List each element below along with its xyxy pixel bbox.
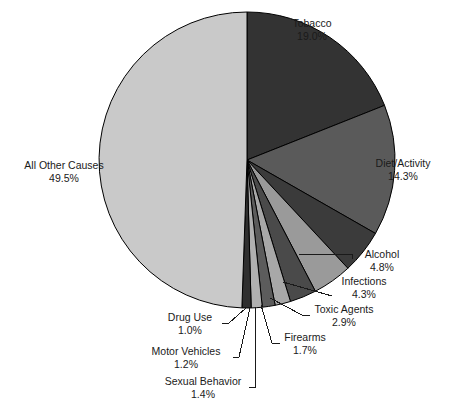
slice-label-sexual-behavior-pct: 1.4%: [165, 388, 241, 401]
slice-label-alcohol: Alcohol 4.8%: [365, 248, 399, 274]
slice-label-infections-name: Infections: [342, 275, 387, 288]
leader-line-drug-use: [222, 308, 246, 323]
leader-line-motor-vehicles: [233, 308, 250, 357]
slice-label-motor-vehicles: Motor Vehicles 1.2%: [152, 345, 221, 371]
leader-line-firearms: [261, 305, 280, 343]
pie-chart-canvas: [0, 0, 461, 418]
slice-label-motor-vehicles-name: Motor Vehicles: [152, 345, 221, 358]
slice-label-diet-activity: Diet/Activity 14.3%: [376, 157, 431, 183]
slice-label-all-other-causes: All Other Causes 49.5%: [24, 159, 103, 185]
pie-slice-group: [99, 12, 395, 308]
slice-label-drug-use-name: Drug Use: [168, 311, 212, 324]
leader-line-sexual-behavior: [249, 307, 255, 387]
slice-label-drug-use: Drug Use 1.0%: [168, 311, 212, 337]
slice-label-tobacco-name: Tobacco: [292, 17, 331, 30]
pie-slice-all-other-causes: [99, 12, 247, 308]
slice-label-alcohol-name: Alcohol: [365, 248, 399, 261]
slice-label-sexual-behavior-name: Sexual Behavior: [165, 375, 241, 388]
slice-label-toxic-agents: Toxic Agents 2.9%: [315, 303, 374, 329]
slice-label-firearms-pct: 1.7%: [284, 344, 325, 357]
slice-label-tobacco-pct: 19.0%: [292, 30, 331, 43]
slice-label-infections-pct: 4.3%: [342, 288, 387, 301]
slice-label-diet-activity-name: Diet/Activity: [376, 157, 431, 170]
slice-label-sexual-behavior: Sexual Behavior 1.4%: [165, 375, 241, 401]
slice-label-toxic-agents-pct: 2.9%: [315, 316, 374, 329]
slice-label-toxic-agents-name: Toxic Agents: [315, 303, 374, 316]
pie-chart-figure: Tobacco 19.0% Diet/Activity 14.3% Alcoho…: [0, 0, 461, 418]
slice-label-firearms: Firearms 1.7%: [284, 331, 325, 357]
slice-label-firearms-name: Firearms: [284, 331, 325, 344]
slice-label-diet-activity-pct: 14.3%: [376, 170, 431, 183]
slice-label-motor-vehicles-pct: 1.2%: [152, 358, 221, 371]
slice-label-alcohol-pct: 4.8%: [365, 261, 399, 274]
slice-label-drug-use-pct: 1.0%: [168, 324, 212, 337]
slice-label-infections: Infections 4.3%: [342, 275, 387, 301]
slice-label-tobacco: Tobacco 19.0%: [292, 17, 331, 43]
slice-label-all-other-causes-pct: 49.5%: [24, 172, 103, 185]
slice-label-all-other-causes-name: All Other Causes: [24, 159, 103, 172]
